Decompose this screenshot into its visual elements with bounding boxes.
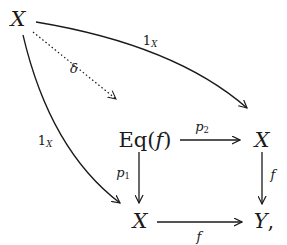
label-delta: δ [70,61,78,76]
label-identity-left: 1X [38,133,52,149]
label-sub-x: X [151,39,157,49]
node-x-top: X [11,7,26,31]
node-x-right-label: X [255,128,270,152]
eq-prefix: Eq( [119,128,156,152]
label-delta-symbol: δ [70,61,78,76]
label-f-vertical: f [271,167,276,182]
label-f: f [197,229,202,244]
node-equalizer: Eq(f) [119,128,172,152]
label-identity-top: 1X [143,33,157,49]
node-x-bottom: X [133,209,148,233]
node-y: Y, [254,209,275,233]
label-p2: p2 [195,119,209,135]
eq-suffix: ) [163,128,171,152]
label-p1: p1 [116,165,130,181]
node-x-right: X [255,128,270,152]
arrow-identity-top [36,22,247,108]
label-sub-x: X [46,139,52,149]
node-x-bottom-label: X [133,209,148,233]
node-y-label: Y [254,209,268,233]
commutative-diagram: X Eq(f) X X Y, 1X δ 1X p2 p1 f f [0,0,287,245]
node-y-comma: , [268,209,275,233]
label-sub-1: 1 [124,171,129,181]
label-f: f [271,167,276,182]
eq-argument: f [155,128,163,152]
label-f-horizontal: f [197,229,202,244]
node-x-top-label: X [11,7,26,31]
label-sub-2: 2 [203,125,208,135]
